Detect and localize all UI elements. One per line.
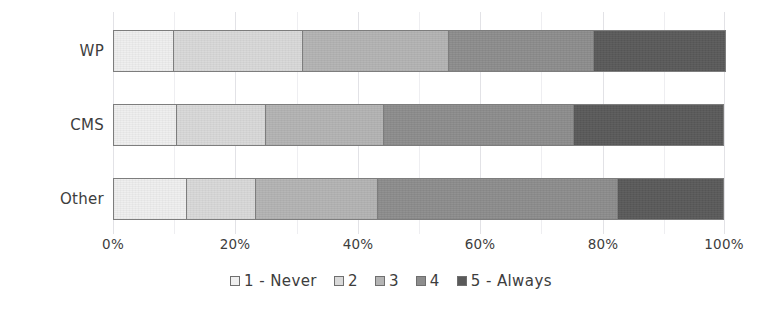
legend-swatch-5-icon bbox=[457, 276, 467, 286]
legend-swatch-3-icon bbox=[375, 276, 385, 286]
bar-segment-wp-2 bbox=[173, 30, 302, 72]
legend: 1 - Never 2 3 4 5 - Always bbox=[0, 272, 782, 290]
y-axis-label-cms: CMS bbox=[0, 104, 104, 146]
legend-label-4: 4 bbox=[430, 272, 440, 290]
y-axis-label-other: Other bbox=[0, 178, 104, 220]
x-tick-0: 0% bbox=[102, 236, 124, 252]
bar-row-other bbox=[113, 178, 725, 220]
legend-label-1: 1 - Never bbox=[244, 272, 317, 290]
bar-segment-wp-4 bbox=[448, 30, 593, 72]
plot-area bbox=[113, 12, 725, 234]
x-tick-40: 40% bbox=[343, 236, 374, 252]
legend-swatch-4-icon bbox=[416, 276, 426, 286]
bar-segment-wp-1 bbox=[113, 30, 173, 72]
legend-label-5: 5 - Always bbox=[471, 272, 552, 290]
legend-item-2: 2 bbox=[334, 272, 358, 290]
bar-segment-cms-1 bbox=[113, 104, 176, 146]
legend-item-3: 3 bbox=[375, 272, 399, 290]
bar-row-cms bbox=[113, 104, 725, 146]
bar-segment-cms-4 bbox=[383, 104, 573, 146]
bar-segment-cms-3 bbox=[265, 104, 383, 146]
bar-segment-wp-5 bbox=[593, 30, 725, 72]
x-tick-20: 20% bbox=[220, 236, 251, 252]
legend-label-2: 2 bbox=[348, 272, 358, 290]
y-axis-label-wp: WP bbox=[0, 30, 104, 72]
bar-segment-wp-3 bbox=[302, 30, 448, 72]
x-axis: 0% 20% 40% 60% 80% 100% bbox=[113, 236, 725, 258]
legend-swatch-1-icon bbox=[230, 276, 240, 286]
legend-item-4: 4 bbox=[416, 272, 440, 290]
legend-swatch-2-icon bbox=[334, 276, 344, 286]
bar-segment-other-4 bbox=[377, 178, 617, 220]
stacked-bar-chart: WP CMS Other bbox=[0, 0, 782, 315]
bar-row-wp bbox=[113, 30, 725, 72]
x-tick-60: 60% bbox=[465, 236, 496, 252]
x-tick-80: 80% bbox=[588, 236, 619, 252]
bar-segment-other-5 bbox=[617, 178, 725, 220]
y-axis-category-labels: WP CMS Other bbox=[0, 12, 104, 234]
x-tick-100: 100% bbox=[704, 236, 743, 252]
legend-item-1: 1 - Never bbox=[230, 272, 317, 290]
legend-label-3: 3 bbox=[389, 272, 399, 290]
bar-segment-cms-5 bbox=[573, 104, 725, 146]
legend-item-5: 5 - Always bbox=[457, 272, 552, 290]
bar-rows bbox=[113, 12, 725, 234]
bar-segment-other-3 bbox=[255, 178, 377, 220]
bar-segment-other-1 bbox=[113, 178, 186, 220]
bar-segment-other-2 bbox=[186, 178, 255, 220]
bar-segment-cms-2 bbox=[176, 104, 265, 146]
